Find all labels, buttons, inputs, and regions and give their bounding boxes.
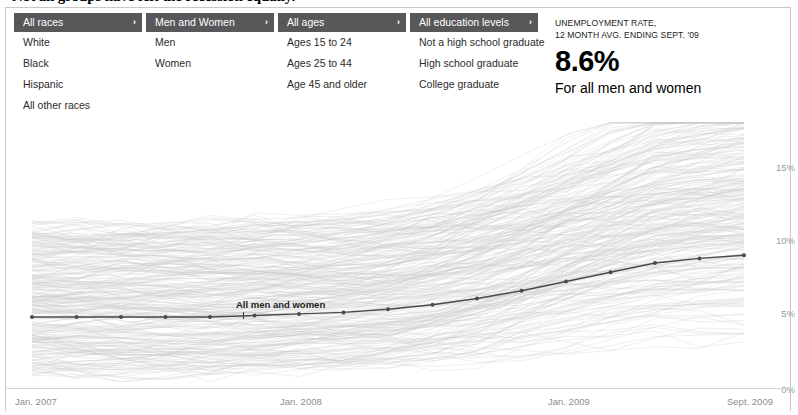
selector-gender-selected[interactable]: Men and Women ›	[146, 13, 274, 32]
selector-race-selected[interactable]: All races ›	[14, 13, 142, 32]
x-axis-label-sept-2009: Sept. 2009	[727, 396, 773, 407]
series-annotation-tick	[243, 312, 244, 319]
selector-column-race: All races › White Black Hispanic All oth…	[14, 13, 142, 116]
readout-kicker-line-1: UNEMPLOYMENT RATE,	[555, 18, 780, 30]
selector-education-selected-label: All education levels	[419, 16, 509, 28]
selector-age-selected-label: All ages	[287, 16, 324, 28]
data-point[interactable]	[119, 315, 123, 319]
data-point[interactable]	[431, 303, 435, 307]
y-axis-label-10: 10%	[755, 235, 795, 246]
selector-column-gender: Men and Women › Men Women	[146, 13, 274, 74]
selector-column-age: All ages › Ages 15 to 24 Ages 25 to 44 A…	[278, 13, 406, 95]
x-axis-label-jan-2008: Jan. 2008	[280, 396, 322, 407]
selector-age-selected[interactable]: All ages ›	[278, 13, 406, 32]
data-point[interactable]	[564, 280, 568, 284]
data-point[interactable]	[386, 307, 390, 311]
data-point[interactable]	[208, 315, 212, 319]
selector-education-selected[interactable]: All education levels ›	[410, 13, 538, 32]
chevron-right-icon: ›	[529, 13, 532, 32]
selector-age-option-25-44[interactable]: Ages 25 to 44	[278, 53, 406, 74]
data-point[interactable]	[653, 261, 657, 265]
selector-education-option-college-grad[interactable]: College graduate	[410, 74, 538, 95]
data-point[interactable]	[253, 314, 257, 318]
chevron-right-icon: ›	[397, 13, 400, 32]
data-point[interactable]	[475, 297, 479, 301]
background-series-lines	[32, 123, 744, 382]
selector-gender-option-men[interactable]: Men	[146, 32, 274, 53]
data-point[interactable]	[742, 253, 746, 257]
y-axis-label-5: 5%	[755, 308, 795, 319]
selector-gender-option-women[interactable]: Women	[146, 53, 274, 74]
data-point[interactable]	[609, 270, 613, 274]
data-point[interactable]	[75, 315, 79, 319]
chevron-right-icon: ›	[265, 13, 268, 32]
data-point[interactable]	[297, 312, 301, 316]
infographic-page: Not all groups have felt the recession e…	[0, 0, 798, 415]
chevron-right-icon: ›	[133, 13, 136, 32]
data-point[interactable]	[520, 289, 524, 293]
readout-subtitle: For all men and women	[555, 79, 780, 97]
unemployment-line-chart	[6, 118, 790, 388]
data-point[interactable]	[342, 310, 346, 314]
selector-race-option-hispanic[interactable]: Hispanic	[14, 74, 142, 95]
data-point[interactable]	[164, 315, 168, 319]
selector-education-option-hs-grad[interactable]: High school graduate	[410, 53, 538, 74]
selector-race-option-all-other-races[interactable]: All other races	[14, 95, 142, 116]
page-title: Not all groups have felt the recession e…	[12, 0, 512, 5]
selector-education-option-not-hs-grad[interactable]: Not a high school graduate	[410, 32, 538, 53]
readout-value: 8.6%	[555, 44, 780, 78]
selector-column-education: All education levels › Not a high school…	[410, 13, 538, 95]
selector-age-option-45-plus[interactable]: Age 45 and older	[278, 74, 406, 95]
selector-race-option-black[interactable]: Black	[14, 53, 142, 74]
data-point[interactable]	[698, 256, 702, 260]
y-axis-label-0: 0%	[755, 384, 795, 395]
readout-kicker-line-2: 12 MONTH AVG. ENDING SEPT. '09	[555, 30, 780, 42]
selector-race-selected-label: All races	[23, 16, 63, 28]
selector-race-option-white[interactable]: White	[14, 32, 142, 53]
selector-gender-selected-label: Men and Women	[155, 16, 235, 28]
y-axis-label-15: 15%	[755, 162, 795, 173]
chart-bottom-rule	[5, 388, 791, 389]
x-axis-label-jan-2007: Jan. 2007	[15, 396, 57, 407]
data-point[interactable]	[30, 315, 34, 319]
selector-age-option-15-24[interactable]: Ages 15 to 24	[278, 32, 406, 53]
x-axis-label-jan-2009: Jan. 2009	[548, 396, 590, 407]
series-annotation-label: All men and women	[236, 299, 325, 310]
chart-canvas	[6, 118, 790, 388]
unemployment-readout: UNEMPLOYMENT RATE, 12 MONTH AVG. ENDING …	[555, 18, 780, 97]
